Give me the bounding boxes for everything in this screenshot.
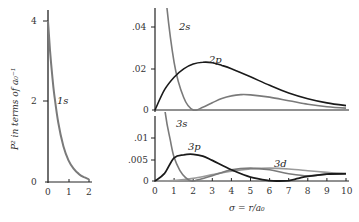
bottom-x-tick-6: 6 [267,186,273,196]
label-2s: 2s [178,21,191,32]
bottom-x-tick-1: 1 [171,186,177,196]
left-y-tick-0: 0 [31,177,37,187]
bottom-x-tick-8: 8 [305,186,311,196]
bottom-y-tick-005: .005 [128,155,148,165]
bottom-right-panel: .01 .005 0 012345678910 σ = r/a₀ 3s 3p 3… [128,22,353,213]
curve-1s [48,21,89,179]
bottom-y-tick-01: .01 [134,133,148,143]
bottom-x-tick-10: 10 [341,186,353,196]
radial-probability-chart: 4 2 0 0 1 2 P² in terms of a₀⁻¹ 1s .04 .… [0,0,359,222]
bottom-x-tick-4: 4 [228,186,234,196]
label-3s: 3s [176,118,188,129]
curve-2s [155,0,346,110]
label-1s: 1s [57,95,69,106]
x-axis-title: σ = r/a₀ [229,203,265,213]
left-y-tick-2: 2 [31,96,37,106]
label-2p: 2p [208,54,222,65]
top-y-tick-0: 0 [143,105,149,115]
top-y-tick-04: .04 [132,22,147,32]
left-y-axis-title: P² in terms of a₀⁻¹ [10,68,20,151]
left-x-tick-1: 1 [66,187,72,197]
left-x-tick-2: 2 [86,187,92,197]
left-x-tick-0: 0 [45,187,51,197]
curve-2p [155,62,346,110]
bottom-x-tick-7: 7 [286,186,292,196]
top-y-tick-02: .02 [132,64,146,74]
bottom-x-tick-9: 9 [324,186,330,196]
bottom-y-tick-0: 0 [143,176,149,186]
label-3d: 3d [274,158,287,169]
bottom-x-tick-3: 3 [209,186,215,196]
left-panel: 4 2 0 0 1 2 P² in terms of a₀⁻¹ 1s [10,10,92,197]
top-right-panel: .04 .02 0 2s 2p [132,0,349,115]
bottom-x-tick-2: 2 [190,186,196,196]
bottom-x-tick-0: 0 [152,186,158,196]
bottom-x-tick-5: 5 [248,186,254,196]
left-y-tick-4: 4 [31,16,37,26]
label-3p: 3p [188,141,201,152]
